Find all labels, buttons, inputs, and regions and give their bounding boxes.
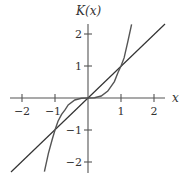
y-tick-label: −2 bbox=[66, 156, 82, 169]
y-tick-label: 2 bbox=[75, 28, 82, 41]
x-tick-label: 1 bbox=[118, 105, 125, 118]
x-tick-label: 2 bbox=[151, 105, 158, 118]
x-tick-label: −2 bbox=[14, 105, 30, 118]
x-tick-label: −1 bbox=[45, 105, 61, 118]
plot-area: K(x) x −2 −1 1 2 2 1 −1 −2 bbox=[0, 0, 187, 183]
chart: K(x) x −2 −1 1 2 2 1 −1 −2 bbox=[0, 0, 187, 183]
y-tick-label: 1 bbox=[75, 60, 82, 73]
y-tick-label: −1 bbox=[66, 124, 82, 137]
y-axis-label: K(x) bbox=[75, 4, 101, 18]
x-axis-label: x bbox=[172, 91, 179, 105]
